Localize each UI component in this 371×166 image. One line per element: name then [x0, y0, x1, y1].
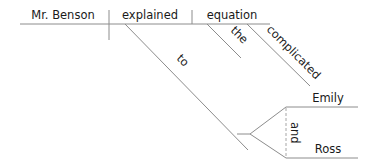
conjunction-word: and — [288, 122, 302, 144]
sentence-diagram: Mr. Benson explained equation the compli… — [0, 0, 371, 166]
modifier-the: the — [228, 23, 251, 46]
compound-object-ross: Ross — [315, 142, 342, 156]
modifier-complicated: complicated — [264, 22, 324, 82]
compound-object-emily: Emily — [312, 91, 344, 105]
preposition-line — [125, 24, 248, 150]
subject-word: Mr. Benson — [31, 8, 94, 22]
fork-lower — [250, 134, 286, 158]
object-word: equation — [207, 8, 258, 22]
preposition-word: to — [174, 51, 192, 69]
fork-upper — [250, 107, 286, 134]
verb-word: explained — [122, 8, 178, 22]
